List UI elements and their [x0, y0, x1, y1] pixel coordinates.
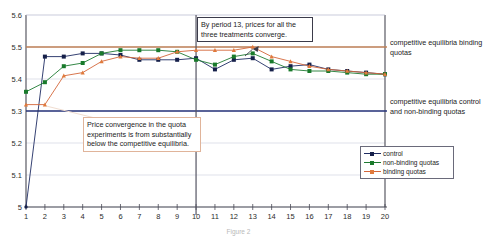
data-point — [43, 55, 47, 59]
data-point — [289, 67, 293, 71]
data-point — [175, 58, 179, 62]
data-point — [81, 70, 85, 74]
annotation-below-equilibria-text: Price convergence in the quota experimen… — [87, 120, 191, 148]
x-axis-tick-label: 7 — [137, 212, 141, 221]
data-point — [81, 51, 85, 55]
legend-marker-non-binding-icon — [364, 158, 381, 167]
x-axis-tick-label: 4 — [81, 212, 85, 221]
data-point — [270, 54, 274, 58]
data-point — [81, 61, 85, 65]
legend-item-non-binding-quotas: non-binding quotas — [364, 158, 450, 167]
data-point — [270, 59, 274, 63]
y-axis-tick-label: 5.1 — [12, 171, 22, 180]
y-axis-tick-label: 5.3 — [12, 107, 22, 116]
x-axis-tick-label: 20 — [381, 212, 389, 221]
x-axis-tick-label: 2 — [43, 212, 47, 221]
data-point — [118, 48, 122, 52]
legend-label-non-binding-quotas: non-binding quotas — [381, 159, 439, 166]
y-axis-tick-label: 5.5 — [12, 43, 22, 52]
data-point — [62, 64, 66, 68]
data-point — [137, 48, 141, 52]
x-axis-tick-label: 17 — [324, 212, 332, 221]
data-point — [100, 51, 104, 55]
x-axis-tick-label: 18 — [343, 212, 351, 221]
chart-legend: control non-binding quotas binding quota… — [360, 146, 454, 179]
figure-caption: Figure 2 — [0, 228, 477, 235]
label-competitive-equilibria-binding: competitive equilibria binding quotas — [390, 38, 486, 58]
legend-label-binding-quotas: binding quotas — [381, 168, 426, 175]
x-axis-tick-label: 3 — [62, 212, 66, 221]
legend-item-control: control — [364, 149, 450, 158]
x-axis-tick-label: 1 — [24, 212, 28, 221]
x-axis-tick-label: 8 — [156, 212, 160, 221]
legend-marker-binding-icon — [364, 167, 381, 176]
data-point — [213, 63, 217, 67]
x-axis-tick-label: 9 — [175, 212, 179, 221]
data-point — [307, 69, 311, 73]
annotation-convergence: By period 13, prices for all the three t… — [197, 17, 313, 42]
data-point — [156, 48, 160, 52]
series-line-binding-quotas — [26, 47, 385, 105]
data-point — [251, 56, 255, 60]
data-point — [24, 205, 27, 208]
series-line-non-binding-quotas — [26, 50, 385, 92]
data-point — [62, 55, 66, 59]
x-axis-tick-label: 6 — [118, 212, 122, 221]
x-axis-tick-label: 15 — [286, 212, 294, 221]
x-axis-tick-label: 5 — [99, 212, 103, 221]
x-axis-tick-label: 11 — [211, 212, 219, 221]
label-competitive-equilibria-control: competitive equilibria control and non-b… — [390, 97, 486, 117]
x-axis-tick-label: 14 — [267, 212, 275, 221]
y-axis-tick-label: 5 — [18, 203, 22, 212]
x-axis-tick-label: 12 — [230, 212, 238, 221]
data-point — [232, 55, 236, 59]
annotation-below-equilibria: Price convergence in the quota experimen… — [83, 117, 201, 152]
y-axis-tick-label: 5.4 — [12, 75, 22, 84]
data-point — [43, 80, 47, 84]
data-point — [251, 51, 255, 55]
legend-label-control: control — [381, 150, 403, 157]
x-axis-tick-label: 19 — [362, 212, 370, 221]
data-point — [213, 67, 217, 71]
series-line-control — [26, 53, 385, 207]
x-axis-tick-label: 13 — [249, 212, 257, 221]
data-point — [194, 58, 198, 62]
annotation-convergence-text: By period 13, prices for all the three t… — [201, 20, 296, 39]
data-point — [24, 90, 28, 94]
legend-item-binding-quotas: binding quotas — [364, 167, 450, 176]
legend-marker-control-icon — [364, 149, 381, 158]
x-axis-tick-label: 16 — [305, 212, 313, 221]
y-axis-tick-label: 5.6 — [12, 11, 22, 20]
data-point — [270, 67, 274, 71]
y-axis-tick-label: 5.2 — [12, 139, 22, 148]
